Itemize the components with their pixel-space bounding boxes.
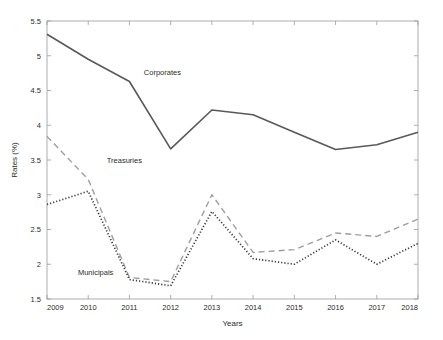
y-tick-label: 4: [37, 121, 41, 130]
chart-figure: 1.522.533.544.555.5 20092010201120122013…: [0, 0, 443, 340]
y-tick-label: 2.5: [31, 225, 41, 234]
x-tick-label: 2011: [121, 303, 137, 312]
series-label-corporates: Corporates: [144, 68, 181, 77]
y-tick-label: 2: [37, 260, 41, 269]
x-tick-label: 2015: [286, 303, 303, 312]
x-tick-label: 2014: [245, 303, 262, 312]
chart-background: [0, 0, 443, 340]
y-tick-label: 5: [37, 52, 41, 61]
series-label-treasuries: Treasuries: [107, 156, 142, 165]
y-tick-label: 3.5: [31, 156, 41, 165]
x-tick-label: 2009: [47, 303, 64, 312]
x-tick-label: 2017: [368, 303, 385, 312]
y-axis-title: Rates (%): [10, 142, 19, 178]
x-tick-label: 2010: [80, 303, 97, 312]
x-tick-label: 2018: [401, 303, 418, 312]
y-tick-label: 3: [37, 191, 41, 200]
x-tick-label: 2016: [327, 303, 344, 312]
x-axis-title: Years: [222, 319, 242, 328]
series-label-municipals: Municipals: [78, 268, 114, 277]
y-tick-label: 4.5: [31, 86, 41, 95]
line-chart: 1.522.533.544.555.5 20092010201120122013…: [0, 0, 443, 340]
x-tick-label: 2012: [162, 303, 179, 312]
x-tick-label: 2013: [204, 303, 221, 312]
y-tick-label: 1.5: [31, 295, 41, 304]
y-tick-label: 5.5: [31, 17, 41, 26]
